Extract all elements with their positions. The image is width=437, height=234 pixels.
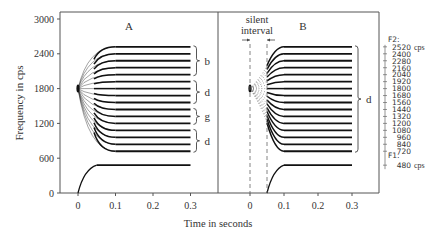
x-tick-label: 0.3 bbox=[346, 200, 359, 211]
x-tick-label: 0.1 bbox=[109, 200, 122, 211]
x-tick-label: 0.2 bbox=[312, 200, 325, 211]
bracket-label: d bbox=[205, 135, 211, 147]
x-tick-label: 0.3 bbox=[184, 200, 197, 211]
panel-b: d bbox=[242, 39, 372, 194]
bracket-label: b bbox=[205, 55, 211, 67]
silent-interval-label-line2: interval bbox=[241, 25, 273, 36]
x-tick-label: 0 bbox=[76, 200, 81, 211]
bracket-label: g bbox=[205, 110, 211, 122]
bracket bbox=[355, 46, 361, 152]
bracket bbox=[194, 81, 200, 104]
x-axis: 00.10.20.300.10.20.3 bbox=[76, 193, 359, 211]
bracket bbox=[194, 46, 200, 76]
silent-interval-label-line1: silent bbox=[246, 14, 269, 25]
f1-transition bbox=[267, 165, 284, 193]
y-tick-label: 600 bbox=[39, 153, 54, 164]
bracket bbox=[194, 129, 200, 152]
x-tick-label: 0.2 bbox=[147, 200, 160, 211]
f1-transition bbox=[78, 165, 97, 193]
y-axis-label: Frequency in cps bbox=[13, 65, 25, 140]
f1-unit: cps bbox=[414, 161, 425, 170]
f2-unit: cps bbox=[414, 43, 425, 52]
panel-a: bdgd bbox=[76, 46, 210, 193]
x-tick-label: 0 bbox=[248, 200, 253, 211]
y-tick-label: 2400 bbox=[34, 48, 54, 59]
y-tick-label: 3000 bbox=[34, 14, 54, 25]
bracket-label: d bbox=[366, 93, 372, 105]
bracket-label: d bbox=[205, 86, 211, 98]
panel-b-label: B bbox=[299, 20, 306, 32]
x-axis-label: Time in seconds bbox=[184, 218, 252, 229]
y-axis: 06001200180024003000 bbox=[34, 14, 60, 199]
right-frequency-scale: F2:2520240022802160204019201800168015601… bbox=[383, 35, 425, 170]
panel-a-label: A bbox=[125, 20, 133, 32]
f1-scale-title: F1: bbox=[388, 151, 400, 160]
formant-transition-chart: 06001200180024003000 00.10.20.300.10.20.… bbox=[0, 0, 437, 234]
y-tick-label: 0 bbox=[49, 188, 54, 199]
f1-scale-value: 480 bbox=[397, 161, 412, 170]
locus-marker bbox=[76, 85, 79, 93]
x-tick-label: 0.1 bbox=[278, 200, 291, 211]
y-tick-label: 1800 bbox=[34, 83, 54, 94]
y-tick-label: 1200 bbox=[34, 118, 54, 129]
bracket bbox=[194, 108, 200, 124]
